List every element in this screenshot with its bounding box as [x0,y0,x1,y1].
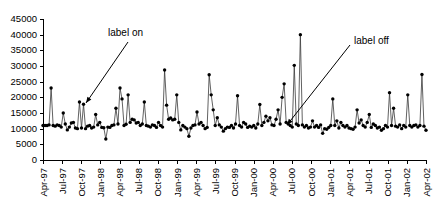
data-point-marker [212,108,215,111]
data-point-marker [207,73,210,76]
x-tick-label: Jan-99 [172,168,183,197]
data-point-marker [165,103,168,106]
x-tick-label: Apr-01 [344,168,355,197]
x-tick-label: Oct-99 [229,168,240,197]
y-tick-label: 0 [32,154,37,165]
data-point-marker [205,126,208,129]
chart-container: 0500010000150002000025000300003500040000… [0,0,440,217]
data-point-marker [370,126,373,129]
data-point-marker [187,134,190,137]
data-point-marker [297,124,300,127]
data-point-marker [72,121,75,124]
data-point-marker [62,111,65,114]
data-point-marker [355,108,358,111]
data-point-marker [282,82,285,85]
data-point-marker [236,94,239,97]
y-tick-label: 35000 [11,44,37,55]
data-point-marker [92,125,95,128]
data-point-marker [163,68,166,71]
annotation-arrow-line [86,42,128,103]
data-point-marker [266,119,269,122]
x-tick-label: Jul-98 [133,168,144,194]
data-point-marker [272,124,275,127]
data-point-marker [331,97,334,100]
data-point-marker [64,122,67,125]
data-point-marker [262,121,265,124]
annotation-arrow-line [287,45,350,125]
data-point-marker [333,124,336,127]
data-point-marker [114,107,117,110]
data-point-marker [382,127,385,130]
y-tick-label: 20000 [11,91,37,102]
data-point-marker [256,122,259,125]
data-point-marker [201,124,204,127]
x-tick-label: Apr-00 [267,168,278,197]
data-point-marker [268,116,271,119]
data-point-marker [420,73,423,76]
data-point-marker [276,108,279,111]
data-point-marker [366,121,369,124]
data-point-marker [216,116,219,119]
data-point-marker [244,122,247,125]
data-point-marker [404,125,407,128]
y-tick-label: 25000 [11,76,37,87]
data-point-marker [293,64,296,67]
x-tick-label: Oct-00 [306,168,317,197]
x-tick-label: Oct-98 [152,168,163,197]
data-point-marker [258,103,261,106]
data-point-marker [66,128,69,131]
data-point-marker [214,124,217,127]
data-point-marker [173,118,176,121]
data-point-marker [309,125,312,128]
data-point-marker [124,123,127,126]
data-point-marker [392,107,395,110]
x-tick-label: Jul-97 [57,168,68,194]
data-point-marker [68,125,71,128]
annotation-label: label off [354,35,389,46]
x-tick-label: Jul-99 [210,168,221,194]
x-tick-label: Apr-98 [114,168,125,197]
y-tick-label: 40000 [11,29,37,40]
x-tick-label: Jul-00 [286,168,297,194]
data-point-marker [357,121,360,124]
x-tick-label: Jan-02 [401,168,412,197]
annotation-arrow-head [86,97,91,103]
data-point-marker [193,123,196,126]
data-point-marker [102,126,105,129]
data-point-marker [132,118,135,121]
data-point-marker [126,93,129,96]
data-point-marker [364,125,367,128]
data-point-marker [179,128,182,131]
data-point-marker [143,100,146,103]
data-point-marker [98,121,101,124]
data-point-marker [60,125,63,128]
data-point-marker [260,124,263,127]
line-chart: 0500010000150002000025000300003500040000… [0,0,440,217]
data-point-marker [390,124,393,127]
data-point-marker [359,118,362,121]
data-point-marker [232,126,235,129]
data-point-marker [291,125,294,128]
data-point-marker [161,125,164,128]
data-point-marker [329,124,332,127]
x-tick-label: Jul-01 [363,168,374,194]
y-tick-label: 10000 [11,123,37,134]
annotation-label: label on [108,27,143,38]
x-axis: Apr-97Jul-97Oct-97Jan-98Apr-98Jul-98Oct-… [38,160,432,197]
data-point-marker [210,93,213,96]
data-point-marker [185,127,188,130]
x-tick-label: Apr-97 [38,168,49,197]
data-point-marker [422,124,425,127]
x-tick-label: Apr-99 [191,168,202,197]
data-point-marker [335,119,338,122]
annotations: label onlabel off [86,27,389,125]
x-tick-label: Jan-01 [325,168,336,197]
data-point-marker [177,121,180,124]
data-point-marker [116,122,119,125]
data-point-marker [47,123,50,126]
data-point-marker [406,93,409,96]
data-point-marker [78,100,81,103]
y-tick-label: 30000 [11,60,37,71]
y-axis: 0500010000150002000025000300003500040000… [11,13,44,165]
data-point-marker [278,122,281,125]
